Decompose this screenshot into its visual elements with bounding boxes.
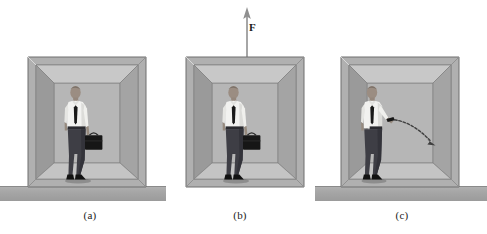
panel-label-c: (c) [372, 209, 432, 221]
physics-figure-elevator-scenarios: (a) F [0, 0, 487, 234]
force-label-F: F [249, 21, 256, 33]
panel-label-b: (b) [210, 209, 270, 221]
panel-c: (c) [315, 0, 487, 234]
panel-a: (a) [0, 0, 166, 234]
person-holding-briefcase-panel-a [57, 84, 105, 184]
person-holding-briefcase-panel-b [215, 84, 263, 184]
panel-label-a: (a) [60, 209, 120, 221]
briefcase-trajectory-arc-panel-c [385, 112, 445, 152]
panel-b: F [160, 0, 330, 234]
force-arrow-up-panel-b [238, 5, 256, 61]
